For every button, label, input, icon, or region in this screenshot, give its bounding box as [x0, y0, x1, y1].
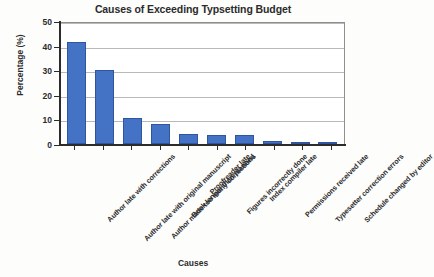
- plot-area: [60, 22, 345, 145]
- y-tick-label: 0: [8, 140, 52, 150]
- x-axis-title: Causes: [0, 258, 386, 268]
- bar-series: [61, 23, 344, 144]
- bar[interactable]: [123, 118, 142, 144]
- y-tick-mark: [54, 47, 59, 48]
- bar[interactable]: [95, 70, 114, 144]
- bar[interactable]: [67, 42, 86, 144]
- y-tick-mark: [54, 96, 59, 97]
- bar[interactable]: [179, 134, 198, 144]
- bar[interactable]: [151, 124, 170, 144]
- y-tick-label: 10: [8, 115, 52, 125]
- chart-title: Causes of Exceeding Typsetting Budget: [0, 3, 386, 15]
- y-tick-label: 20: [8, 91, 52, 101]
- y-tick-label: 30: [8, 66, 52, 76]
- x-axis-labels: Author late with correctionsAuthor late …: [60, 150, 345, 250]
- y-tick-label: 50: [8, 17, 52, 27]
- bar[interactable]: [235, 135, 254, 144]
- y-tick-mark: [54, 120, 59, 121]
- y-tick-mark: [54, 71, 59, 72]
- y-tick-label: 40: [8, 42, 52, 52]
- y-axis-line: [59, 21, 61, 146]
- bar[interactable]: [207, 135, 226, 144]
- y-tick-mark: [54, 22, 59, 23]
